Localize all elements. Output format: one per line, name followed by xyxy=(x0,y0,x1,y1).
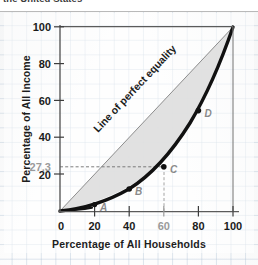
caption-strip: the United States xyxy=(0,0,258,12)
screenshot-page: the United States Percentage of All Inco… xyxy=(0,0,258,265)
x-axis-title: Percentage of All Households xyxy=(0,238,258,250)
data-point-label-b: B xyxy=(135,186,142,197)
y-tick-label-100: 100 xyxy=(33,21,51,33)
figure-container: Percentage of All Income Line of perfect… xyxy=(4,13,254,253)
lorenz-curve-plot: Line of perfect equality xyxy=(4,13,254,253)
y-tick-label-20: 20 xyxy=(39,169,51,181)
y-tick-label-80: 80 xyxy=(39,58,51,70)
x-tick-label-60: 60 xyxy=(158,220,170,232)
data-point-b xyxy=(126,186,132,192)
y-tick-label-60: 60 xyxy=(39,95,51,107)
y-axis-ticks xyxy=(54,27,64,174)
data-point-label-c: C xyxy=(170,164,178,175)
x-tick-label-80: 80 xyxy=(192,220,204,232)
data-point-label-a: A xyxy=(99,202,107,213)
line-of-perfect-equality xyxy=(60,27,233,211)
x-tick-label-0: 0 xyxy=(58,220,64,232)
x-tick-label-20: 20 xyxy=(88,220,100,232)
x-tick-label-100: 100 xyxy=(224,220,242,232)
data-point-d xyxy=(196,108,202,114)
caption-text: the United States xyxy=(3,0,82,4)
caption-divider xyxy=(0,11,258,12)
x-tick-label-40: 40 xyxy=(123,220,135,232)
data-point-label-d: D xyxy=(205,108,212,119)
data-point-c xyxy=(161,164,167,170)
data-point-a xyxy=(92,202,97,207)
y-tick-label-40: 40 xyxy=(39,131,51,143)
